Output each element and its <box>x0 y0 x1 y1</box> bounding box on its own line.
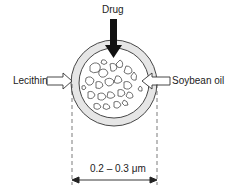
size-label: 0.2 – 0.3 μm <box>90 163 146 175</box>
dimension-arrow <box>72 177 157 183</box>
soybean-oil-label: Soybean oil <box>172 75 224 87</box>
lecithin-label: Lecithin <box>13 75 47 87</box>
inner-core <box>79 48 149 118</box>
drug-label: Drug <box>102 4 124 16</box>
lecithin-arrow <box>47 73 72 89</box>
